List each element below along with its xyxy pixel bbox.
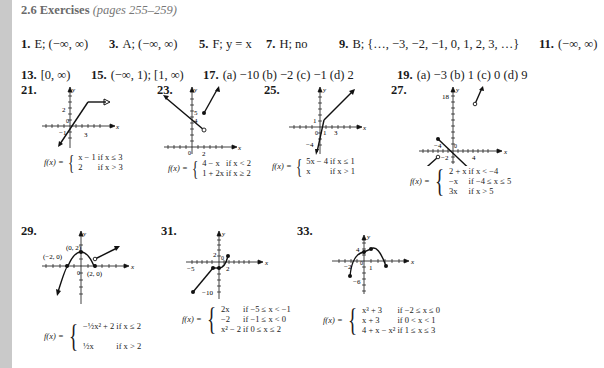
graph-27: y x 18 −4 0 −2 4 (415, 86, 525, 166)
svg-text:2: 2 (62, 106, 66, 114)
svg-text:2: 2 (202, 150, 206, 156)
svg-text:y: y (82, 230, 87, 238)
graph-29: y x (0, 2) (−2, 0) (2, 0) 0 (38, 226, 138, 306)
svg-text:x: x (410, 258, 415, 266)
figure-33-number: 33. (297, 224, 313, 239)
svg-text:x: x (237, 144, 242, 152)
svg-text:18: 18 (442, 93, 450, 101)
svg-text:−5: −5 (187, 265, 195, 273)
svg-text:−4: −4 (306, 141, 314, 149)
formula-21: f(x) ={ x − 1if x ≤ 3 2if x > 3 (44, 152, 125, 172)
page-margin-bar (0, 0, 12, 368)
section-heading: 2.6 Exercises (21, 3, 90, 17)
svg-text:1: 1 (313, 117, 317, 125)
formula-31: f(x) ={ 2xif −5 ≤ x < −1 −2if −1 ≤ x < 0… (182, 304, 293, 334)
svg-text:y: y (71, 86, 76, 94)
svg-text:x: x (115, 123, 120, 131)
answer-3: 3.A; (−∞, ∞) (109, 37, 177, 52)
svg-text:0: 0 (454, 143, 457, 149)
svg-text:2: 2 (226, 265, 230, 273)
svg-text:0: 0 (188, 150, 191, 156)
figure-25-number: 25. (264, 83, 280, 98)
svg-text:(−2, 0): (−2, 0) (43, 253, 63, 261)
svg-text:−2: −2 (344, 263, 352, 271)
svg-text:5: 5 (194, 109, 198, 117)
svg-text:0: 0 (77, 270, 80, 276)
svg-text:(0, 2): (0, 2) (66, 244, 82, 252)
svg-text:−1: −1 (59, 129, 67, 137)
answer-11: 11.(−∞, ∞) (539, 37, 597, 52)
formula-33: f(x) ={ x³ + 3if −2 ≤ x ≤ 0 x + 3if 0 < … (323, 305, 442, 335)
answer-1: 1.E; (−∞, ∞) (21, 37, 88, 52)
svg-text:2: 2 (213, 251, 217, 259)
svg-text:4: 4 (472, 154, 476, 162)
answer-5: 5.F; y = x (199, 37, 252, 52)
answer-15: 15.(−∞, 1); [1, ∞) (91, 68, 184, 83)
graph-33: y x 4 −2 0 1 −6 (328, 226, 428, 296)
answer-9: 9.B; {…, −3, −2, −1, 0, 1, 2, 3, …} (339, 37, 519, 52)
svg-text:y: y (221, 230, 226, 238)
svg-text:1: 1 (369, 264, 373, 272)
svg-text:−10: −10 (202, 289, 213, 297)
formula-29: f(x) ={ −½x² + 2if x ≤ 2 ½xif x > 2 (44, 321, 143, 351)
svg-text:−6: −6 (353, 278, 361, 286)
figure-31-number: 31. (161, 224, 177, 239)
svg-text:0: 0 (66, 118, 69, 124)
graph-23: y x 5 4 0 2 (160, 86, 245, 156)
svg-text:y: y (322, 86, 327, 94)
formula-27: f(x) ={ 2 + xif x < −4 −xif −4 ≤ x ≤ 5 3… (410, 166, 513, 196)
svg-text:x: x (130, 263, 135, 271)
svg-text:x: x (362, 124, 367, 132)
figure-27-number: 27. (391, 83, 407, 98)
svg-text:0: 0 (315, 130, 318, 136)
svg-text:4: 4 (194, 117, 198, 125)
svg-text:−2: −2 (441, 154, 449, 162)
answer-13: 13.[0, ∞) (21, 68, 70, 83)
graph-25: y x 1 0 1 3 −4 (285, 86, 370, 156)
answer-7: 7.H; no (266, 37, 308, 52)
answer-19: 19.(a) −3 (b) 1 (c) 0 (d) 9 (397, 68, 527, 83)
svg-text:y: y (455, 86, 460, 94)
section-title: 2.6 Exercises (pages 255–259) (21, 3, 177, 18)
figure-21-number: 21. (21, 83, 37, 98)
figure-29-number: 29. (21, 224, 37, 239)
svg-text:3: 3 (334, 129, 338, 137)
svg-text:3: 3 (84, 131, 88, 139)
formula-23: f(x) ={ 4 − xif x < 2 1 + 2xif x ≥ 2 (168, 158, 253, 178)
svg-text:y: y (193, 86, 198, 94)
answer-17: 17.(a) −10 (b) −2 (c) −1 (d) 2 (203, 68, 354, 83)
svg-text:y: y (366, 233, 371, 241)
section-pages: (pages 255–259) (93, 3, 177, 17)
svg-text:0: 0 (360, 260, 363, 266)
graph-21: y x 2 0 −1 3 (38, 86, 123, 150)
formula-25: f(x) ={ 5x − 4if x ≤ 1 xif x > 1 (272, 156, 357, 176)
svg-text:−4: −4 (434, 142, 442, 150)
svg-text:1: 1 (323, 129, 327, 137)
svg-text:x: x (503, 148, 508, 156)
svg-text:x: x (264, 259, 269, 267)
graph-31: y x 2 0 −5 2 −10 (182, 226, 282, 301)
svg-text:(2, 0): (2, 0) (87, 270, 103, 278)
svg-text:0: 0 (221, 255, 224, 261)
svg-text:4: 4 (356, 246, 360, 254)
